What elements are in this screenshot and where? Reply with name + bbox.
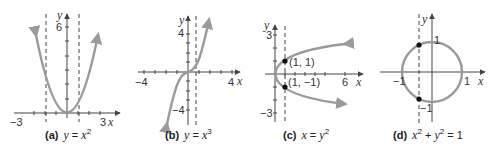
point-1-neg1 (282, 84, 287, 89)
x-axis-label: x (107, 115, 114, 129)
x-tick-label-min: −3 (10, 116, 23, 128)
y-tick-label-min: −3 (260, 107, 273, 119)
y-tick-label-max: 6 (56, 21, 62, 33)
caption-c-label: (c) (283, 129, 296, 141)
x-tick-label-max: 3 (100, 116, 106, 128)
y-axis-label: y (421, 12, 428, 26)
y-axis-label: y (56, 8, 63, 22)
caption-c: (c)x = y2 (283, 127, 329, 143)
x-axis-label: x (355, 75, 362, 89)
panel-c-graph: (1, 1) (1, −1) 6 3 −3 x y (260, 18, 363, 124)
panel-a-graph: −3 3 6 x y (10, 8, 120, 129)
x-tick-label-min: −1 (393, 75, 406, 87)
caption-a-label: (a) (45, 129, 58, 141)
panel-d-graph: −1 1 1 −1 x y (380, 12, 485, 124)
y-axis-label: y (263, 18, 270, 32)
caption-b-label: (b) (165, 129, 179, 141)
y-axis-label: y (178, 13, 185, 27)
x-tick-label-max: 1 (464, 75, 470, 87)
point-label-1-neg1: (1, −1) (288, 76, 320, 88)
y-tick-label-max: 1 (434, 34, 440, 46)
x-tick-label-max: 6 (342, 76, 348, 88)
x-axis-label: x (477, 74, 484, 88)
point-lower (416, 96, 421, 101)
y-tick-label-min: −4 (172, 104, 185, 116)
caption-b: (b)y = x3 (165, 127, 212, 143)
x-tick-label-min: −4 (135, 76, 148, 88)
caption-d-label: (d) (393, 129, 407, 141)
point-1-1 (282, 58, 287, 63)
point-label-1-1: (1, 1) (289, 56, 315, 68)
x-axis-label: x (236, 74, 243, 88)
caption-d: (d)x2 + y2 = 1 (393, 127, 463, 143)
caption-a: (a)y = x2 (45, 127, 91, 143)
x-tick-label-max: 4 (228, 76, 234, 88)
y-tick-label-min: −1 (420, 102, 433, 114)
panel-b-graph: −4 4 4 −4 x y (135, 13, 243, 126)
y-tick-label-max: 4 (178, 27, 184, 39)
point-upper (416, 42, 421, 47)
